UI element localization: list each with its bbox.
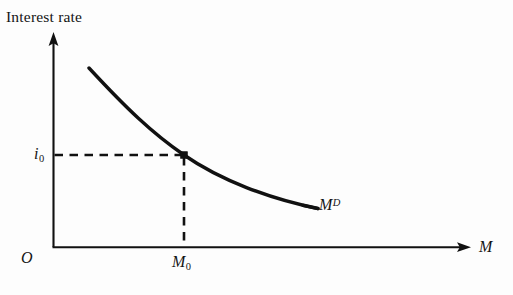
curve-label-leader (303, 205, 318, 208)
m0-base: M (172, 253, 185, 270)
m0-subscript: 0 (185, 261, 191, 272)
y-axis (49, 32, 59, 247)
money-demand-curve (89, 68, 318, 209)
equilibrium-point-marker (180, 151, 188, 159)
figure-root: Interest rate i0 M0 O M MD (0, 0, 513, 295)
x-axis-tick-label-m0: M0 (172, 254, 191, 273)
curve-label-md: MD (319, 197, 340, 213)
x-axis-variable-label: M (479, 239, 492, 255)
md-base: M (319, 196, 332, 213)
origin-label: O (21, 250, 33, 266)
i0-subscript: 0 (38, 153, 44, 164)
x-axis (53, 242, 472, 252)
md-superscript: D (332, 197, 340, 208)
y-axis-title: Interest rate (6, 9, 82, 25)
money-demand-chart-svg (0, 0, 513, 295)
y-axis-tick-label-i0: i0 (34, 146, 44, 165)
